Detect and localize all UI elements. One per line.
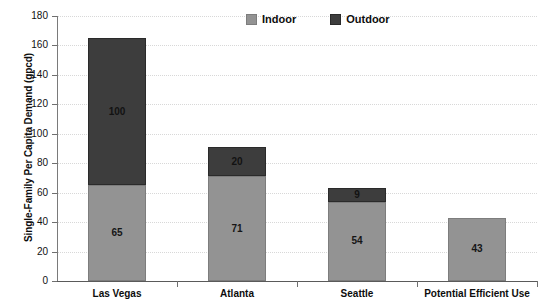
y-axis-label: 180: [10, 11, 48, 21]
y-axis-tick: [52, 134, 57, 135]
x-axis-label: Atlanta: [177, 289, 297, 299]
x-axis-tick: [537, 281, 538, 287]
bar-group[interactable]: 2071: [208, 16, 266, 281]
y-axis-tick: [52, 222, 57, 223]
legend-label: Outdoor: [346, 14, 389, 25]
y-axis-label: 120: [10, 99, 48, 109]
bar-segment-outdoor[interactable]: 100: [88, 38, 146, 185]
bar-group[interactable]: 43: [448, 16, 506, 281]
y-axis-label: 100: [10, 129, 48, 139]
stacked-bar-chart: Single-Family Per Capita Demand (gpcd) 0…: [0, 0, 545, 305]
legend-swatch-indoor-icon: [246, 14, 257, 25]
bar-value-label: 65: [89, 228, 145, 238]
legend-item-outdoor[interactable]: Outdoor: [330, 14, 389, 25]
bar-stack: 10065: [88, 38, 146, 281]
y-axis-tick: [52, 104, 57, 105]
y-axis-label: 80: [10, 158, 48, 168]
y-axis-tick: [52, 281, 57, 282]
bar-segment-outdoor[interactable]: 20: [208, 147, 266, 176]
chart-legend: IndoorOutdoor: [246, 14, 390, 25]
bar-stack: 2071: [208, 147, 266, 281]
bar-value-label: 9: [329, 190, 385, 200]
y-axis-label: 160: [10, 40, 48, 50]
bar-segment-indoor[interactable]: 71: [208, 176, 266, 281]
bar-value-label: 100: [89, 107, 145, 117]
bar-segment-indoor[interactable]: 54: [328, 202, 386, 282]
bar-stack: 954: [328, 188, 386, 281]
y-axis-tick: [52, 163, 57, 164]
x-axis-tick: [177, 281, 178, 287]
bar-group[interactable]: 10065: [88, 16, 146, 281]
y-axis-label: 0: [10, 276, 48, 286]
y-axis-label: 60: [10, 188, 48, 198]
y-axis-label: 140: [10, 70, 48, 80]
legend-label: Indoor: [262, 14, 296, 25]
y-axis-tick: [52, 16, 57, 17]
bar-segment-indoor[interactable]: 65: [88, 185, 146, 281]
bar-segment-indoor[interactable]: 43: [448, 218, 506, 281]
legend-item-indoor[interactable]: Indoor: [246, 14, 296, 25]
y-axis-tick: [52, 45, 57, 46]
y-axis-tick: [52, 193, 57, 194]
y-axis-tick: [52, 75, 57, 76]
y-axis-label: 20: [10, 247, 48, 257]
y-axis-label: 40: [10, 217, 48, 227]
x-axis-tick: [417, 281, 418, 287]
x-axis-tick: [297, 281, 298, 287]
bar-value-label: 20: [209, 157, 265, 167]
bar-segment-outdoor[interactable]: 9: [328, 188, 386, 201]
bar-group[interactable]: 954: [328, 16, 386, 281]
y-axis-title: Single-Family Per Capita Demand (gpcd): [23, 28, 34, 268]
bar-value-label: 54: [329, 236, 385, 246]
bar-value-label: 71: [209, 224, 265, 234]
legend-swatch-outdoor-icon: [330, 14, 341, 25]
x-axis-label: Las Vegas: [57, 289, 177, 299]
y-axis-tick: [52, 252, 57, 253]
bar-stack: 43: [448, 218, 506, 281]
x-axis-label: Potential Efficient Use: [417, 289, 537, 299]
y-axis-line: [57, 16, 58, 282]
bar-value-label: 43: [449, 244, 505, 254]
x-axis-label: Seattle: [297, 289, 417, 299]
